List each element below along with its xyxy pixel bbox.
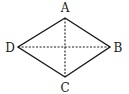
vertex-label-a: A: [60, 1, 70, 15]
vertex-label-b: B: [114, 41, 123, 55]
rhombus-diagram: A B C D: [0, 0, 129, 94]
vertex-label-c: C: [60, 81, 69, 94]
vertex-label-d: D: [5, 41, 15, 55]
rhombus-outline: [18, 18, 110, 77]
